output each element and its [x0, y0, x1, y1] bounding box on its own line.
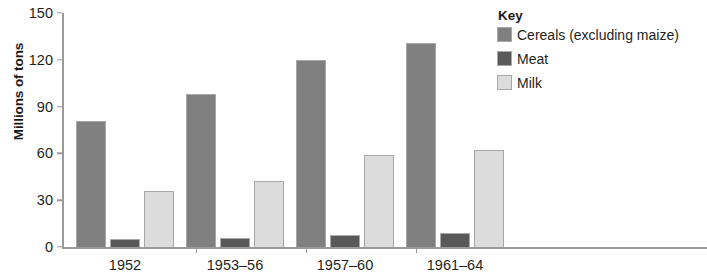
bar-group: 1961–64: [406, 13, 504, 247]
bar-chart: Millions of tons 030609012015019521953–5…: [0, 0, 707, 279]
y-axis-tick-mark: [57, 59, 62, 60]
bar: [76, 121, 106, 247]
x-axis-tick-label: 1961–64: [406, 257, 504, 273]
y-axis-tick-mark: [57, 153, 62, 154]
y-axis-tick-mark: [57, 199, 62, 200]
legend-label: Meat: [517, 51, 548, 67]
x-axis-tick-label: 1953–56: [186, 257, 284, 273]
bar: [186, 94, 216, 247]
bar-group: 1953–56: [186, 13, 284, 247]
bar: [440, 233, 470, 247]
x-axis-tick-label: 1957–60: [296, 257, 394, 273]
bar: [406, 43, 436, 247]
y-axis-tick-mark: [57, 12, 62, 13]
legend-label: Cereals (excluding maize): [517, 27, 679, 43]
bar: [296, 60, 326, 247]
plot-area: 030609012015019521953–561957–601961–64: [62, 13, 512, 247]
y-axis-tick-mark: [57, 106, 62, 107]
bar: [330, 235, 360, 247]
bar: [364, 155, 394, 247]
bar: [220, 238, 250, 247]
bar: [144, 191, 174, 247]
bar: [110, 239, 140, 247]
legend-label: Milk: [517, 75, 542, 91]
legend-item: Cereals (excluding maize): [497, 26, 707, 43]
y-axis-title: Millions of tons: [11, 0, 26, 202]
legend-item: Meat: [497, 50, 707, 67]
legend-item: Milk: [497, 74, 707, 91]
x-axis-tick-mark: [306, 247, 307, 253]
bar-group: 1952: [76, 13, 174, 247]
legend-swatch: [497, 51, 512, 66]
x-axis-tick-mark: [196, 247, 197, 253]
legend: Key Cereals (excluding maize)MeatMilk: [497, 8, 707, 98]
bar-group: 1957–60: [296, 13, 394, 247]
x-axis-tick-label: 1952: [76, 257, 174, 273]
y-axis-tick-mark: [57, 246, 62, 247]
legend-swatch: [497, 75, 512, 90]
legend-swatch: [497, 27, 512, 42]
bar: [254, 181, 284, 247]
x-axis-line: [62, 247, 707, 249]
y-axis-line: [62, 13, 64, 247]
bar: [474, 150, 504, 247]
legend-title: Key: [498, 8, 707, 23]
x-axis-tick-mark: [416, 247, 417, 253]
